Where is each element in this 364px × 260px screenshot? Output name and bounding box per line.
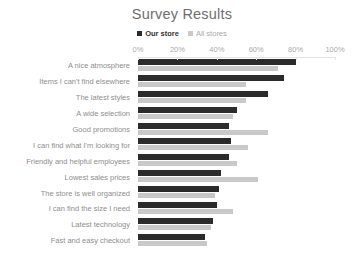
legend-label-our-store: Our store	[145, 29, 179, 38]
category-label: The latest styles	[76, 93, 130, 102]
bar-group	[138, 169, 335, 185]
category-axis: A nice atmosphereItems I can't find else…	[0, 58, 134, 254]
value-axis-tick-label: 100%	[325, 44, 344, 55]
bar-group	[138, 90, 335, 106]
category-label: Fast and easy checkout	[51, 236, 130, 245]
category-label: I can find the size I need	[49, 204, 130, 213]
bar-group	[138, 153, 335, 169]
value-axis-tick-mark	[138, 57, 139, 60]
category-label: Lowest sales prices	[65, 173, 130, 182]
category-label: A wide selection	[76, 109, 130, 118]
bar-our-store[interactable]	[138, 234, 205, 240]
value-axis-tick-mark	[335, 57, 336, 60]
value-axis-labels: 0%20%40%60%80%100%	[138, 44, 335, 55]
bar-all-stores[interactable]	[138, 145, 248, 150]
legend-swatch-all-stores	[188, 31, 193, 36]
bar-all-stores[interactable]	[138, 98, 246, 103]
bar-group	[138, 58, 335, 74]
bar-all-stores[interactable]	[138, 130, 268, 135]
survey-results-chart: Survey Results Our store All stores A ni…	[0, 0, 364, 260]
value-axis-tick-mark	[296, 57, 297, 60]
chart-legend: Our store All stores	[0, 29, 364, 38]
bar-all-stores[interactable]	[138, 114, 233, 119]
value-axis-tick-label: 20%	[170, 44, 185, 55]
value-axis-tick-mark	[177, 57, 178, 60]
category-label-row: The latest styles	[0, 90, 134, 106]
category-label: A nice atmosphere	[68, 61, 130, 70]
category-label-row: Good promotions	[0, 122, 134, 138]
bar-our-store[interactable]	[138, 186, 219, 192]
bars-area	[138, 58, 335, 254]
value-axis-tick-label: 0%	[133, 44, 144, 55]
category-label-row: Friendly and helpful employees	[0, 153, 134, 169]
category-label-row: I can find the size I need	[0, 201, 134, 217]
bar-all-stores[interactable]	[138, 209, 233, 214]
category-label-row: Items I can't find elsewhere	[0, 74, 134, 90]
legend-item-all-stores[interactable]: All stores	[188, 29, 227, 38]
category-label-row: A wide selection	[0, 106, 134, 122]
bar-group	[138, 233, 335, 249]
value-axis-tick-label: 40%	[209, 44, 224, 55]
category-label: The store is well organized	[41, 189, 130, 198]
bar-group	[138, 106, 335, 122]
category-label-row: The store is well organized	[0, 185, 134, 201]
bar-all-stores[interactable]	[138, 193, 215, 198]
category-label: Good promotions	[72, 125, 130, 134]
legend-label-all-stores: All stores	[196, 29, 227, 38]
category-label: Latest technology	[71, 220, 130, 229]
bar-our-store[interactable]	[138, 154, 229, 160]
bar-our-store[interactable]	[138, 91, 268, 97]
category-label-row: Fast and easy checkout	[0, 233, 134, 249]
legend-item-our-store[interactable]: Our store	[137, 29, 179, 38]
category-label-row: I can find what I'm looking for	[0, 137, 134, 153]
bar-group	[138, 185, 335, 201]
category-label: Items I can't find elsewhere	[39, 77, 130, 86]
bar-our-store[interactable]	[138, 218, 213, 224]
bar-all-stores[interactable]	[138, 161, 237, 166]
bar-group	[138, 74, 335, 90]
plot-area: 0%20%40%60%80%100%	[138, 44, 335, 254]
bar-our-store[interactable]	[138, 107, 237, 113]
bar-our-store[interactable]	[138, 202, 217, 208]
bar-group	[138, 122, 335, 138]
bar-all-stores[interactable]	[138, 82, 246, 87]
bar-all-stores[interactable]	[138, 241, 207, 246]
bar-our-store[interactable]	[138, 138, 231, 144]
bar-group	[138, 201, 335, 217]
bar-all-stores[interactable]	[138, 225, 211, 230]
category-label: I can find what I'm looking for	[33, 141, 130, 150]
category-label: Friendly and helpful employees	[26, 157, 130, 166]
value-axis-tick-label: 80%	[288, 44, 303, 55]
bar-our-store[interactable]	[138, 123, 229, 129]
legend-swatch-our-store	[137, 31, 142, 36]
value-axis-tick-mark	[217, 57, 218, 60]
bar-our-store[interactable]	[138, 75, 284, 81]
category-label-row: Latest technology	[0, 217, 134, 233]
value-axis-tick-label: 60%	[249, 44, 264, 55]
bar-all-stores[interactable]	[138, 66, 278, 71]
bar-all-stores[interactable]	[138, 177, 258, 182]
chart-title: Survey Results	[0, 6, 364, 22]
value-axis-tick-mark	[256, 57, 257, 60]
bar-group	[138, 137, 335, 153]
category-label-row: A nice atmosphere	[0, 58, 134, 74]
bar-group	[138, 217, 335, 233]
category-label-row: Lowest sales prices	[0, 169, 134, 185]
bar-our-store[interactable]	[138, 170, 221, 176]
